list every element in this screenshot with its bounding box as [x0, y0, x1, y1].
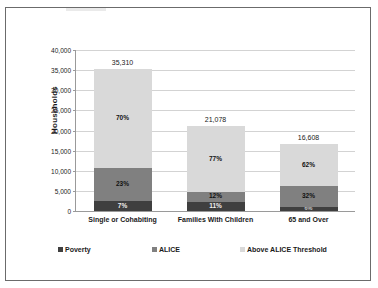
bar-segment-percent-label: 12%	[209, 193, 222, 200]
x-axis-category-label: 65 and Over	[262, 216, 355, 223]
bar-segment[interactable]: 12%	[187, 192, 245, 202]
bar-segment-percent-label: 11%	[209, 203, 222, 210]
bar-segment-percent-label: 6%	[305, 206, 313, 212]
legend-label: ALICE	[159, 246, 180, 253]
legend-item[interactable]: ALICE	[152, 246, 180, 253]
y-axis-tick	[73, 171, 76, 172]
bar-column[interactable]: 11%12%77%21,078Families With Children	[187, 126, 245, 211]
bar-segment-percent-label: 62%	[302, 162, 315, 169]
legend-swatch-icon	[58, 247, 63, 252]
bar-segment[interactable]: 23%	[94, 168, 152, 201]
y-axis-tick	[73, 110, 76, 111]
y-axis-tick	[73, 90, 76, 91]
bar-segment-percent-label: 32%	[302, 193, 315, 200]
x-axis-category-label: Single or Cohabiting	[76, 216, 169, 223]
bar-segment-percent-label: 23%	[116, 181, 129, 188]
y-axis-tick	[73, 151, 76, 152]
legend-swatch-icon	[240, 247, 245, 252]
bar-segment-percent-label: 70%	[116, 115, 129, 122]
bar-segment[interactable]: 32%	[280, 186, 338, 207]
y-axis-tick	[73, 50, 76, 51]
bar-segment-percent-label: 7%	[118, 203, 127, 210]
bar-column[interactable]: 6%32%62%16,60865 and Over	[280, 144, 338, 211]
y-axis-tick	[73, 211, 76, 212]
bar-segment[interactable]: 62%	[280, 144, 338, 185]
y-axis-tick-label: 25,000	[51, 107, 71, 114]
plot-area: 05,00010,00015,00020,00025,00030,00035,0…	[75, 50, 355, 212]
gridline	[76, 50, 355, 51]
y-axis-tick-label: 10,000	[51, 167, 71, 174]
plot-wrapper: Households 05,00010,00015,00020,00025,00…	[37, 44, 359, 234]
legend-swatch-icon	[152, 247, 157, 252]
bar-column[interactable]: 7%23%70%35,310Single or Cohabiting	[94, 69, 152, 211]
bar-segment[interactable]: 77%	[187, 126, 245, 191]
y-axis-tick	[73, 191, 76, 192]
chart-figure-frame: Households 05,00010,00015,00020,00025,00…	[5, 7, 371, 281]
bar-total-label: 21,078	[187, 116, 245, 123]
bar-segment[interactable]: 6%	[280, 207, 338, 211]
scan-artifact	[66, 8, 106, 11]
bar-total-label: 16,608	[280, 134, 338, 141]
y-axis-tick-label: 30,000	[51, 87, 71, 94]
legend-item[interactable]: Above ALICE Threshold	[240, 246, 327, 253]
legend-item[interactable]: Poverty	[58, 246, 91, 253]
y-axis-tick	[73, 131, 76, 132]
legend-label: Poverty	[65, 246, 91, 253]
y-axis-tick-label: 35,000	[51, 67, 71, 74]
legend-label: Above ALICE Threshold	[247, 246, 327, 253]
bar-total-label: 35,310	[94, 59, 152, 66]
y-axis-tick-label: 20,000	[51, 127, 71, 134]
x-axis-category-label: Families With Children	[169, 216, 262, 223]
bar-segment-percent-label: 77%	[209, 156, 222, 163]
y-axis-tick-label: 0	[67, 208, 71, 215]
y-axis-tick-label: 40,000	[51, 47, 71, 54]
chart-legend: PovertyALICEAbove ALICE Threshold	[44, 246, 366, 258]
y-axis-tick-label: 5,000	[55, 187, 71, 194]
bar-segment[interactable]: 11%	[187, 202, 245, 211]
y-axis-tick-label: 15,000	[51, 147, 71, 154]
bar-segment[interactable]: 70%	[94, 69, 152, 168]
bar-segment[interactable]: 7%	[94, 201, 152, 211]
y-axis-tick	[73, 70, 76, 71]
